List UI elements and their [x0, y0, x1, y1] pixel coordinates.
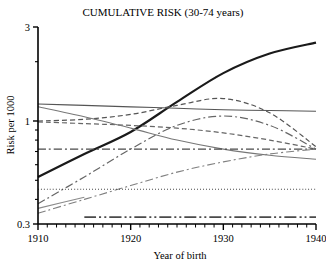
chart-page: CUMULATIVE RISK (30-74 years) Risk per 1… [0, 0, 326, 263]
y-axis-label: Risk per 1000 [5, 96, 16, 155]
chart-title: CUMULATIVE RISK (30-74 years) [82, 6, 243, 19]
series-layer [38, 43, 316, 218]
y-tick-label: 1 [25, 116, 30, 127]
series-line-short-solid-lower-left [38, 197, 84, 208]
x-tick-label: 1930 [213, 233, 234, 244]
series-line-low-rising-dashdot [38, 149, 316, 213]
y-tick-label: 0.3 [17, 219, 30, 230]
x-tick-label: 1920 [120, 233, 141, 244]
series-line-descending-solid-gray [38, 107, 316, 159]
y-tick-label: 3 [25, 22, 30, 33]
x-axis-label: Year of birth [153, 250, 207, 261]
x-tick-label: 1940 [306, 233, 326, 244]
series-line-declining-dashed-mid [38, 122, 316, 149]
series-line-hump-dashdot-rising [38, 116, 316, 204]
x-tick-label: 1910 [28, 233, 49, 244]
tick-label-layer: 0.3131910192019301940 [17, 22, 326, 244]
cumulative-risk-line-chart: CUMULATIVE RISK (30-74 years) Risk per 1… [0, 0, 326, 263]
series-line-rising-thick-solid [38, 43, 316, 177]
